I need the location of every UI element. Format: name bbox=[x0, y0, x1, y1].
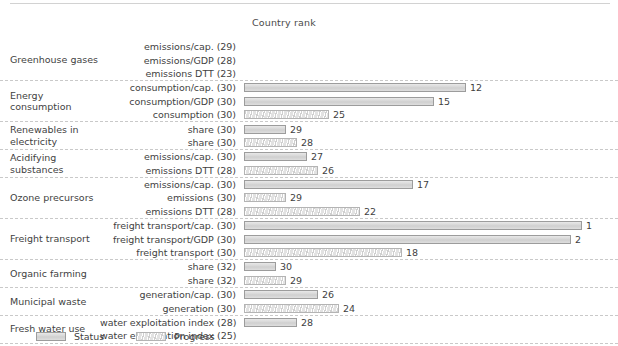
bar-area: 29 bbox=[244, 274, 618, 287]
row-label: freight transport/GDP (30) bbox=[100, 234, 244, 245]
chart-group-inner: Organic farmingshare (32)30share (32)29 bbox=[0, 260, 618, 287]
bar-value: 2 bbox=[575, 234, 581, 245]
bar-value: 26 bbox=[322, 289, 334, 300]
chart-row: generation (30)24 bbox=[100, 301, 618, 314]
group-rows: share (30)29share (30)28 bbox=[100, 122, 618, 149]
legend-label-progress: Progress bbox=[174, 331, 215, 342]
group-rows: freight transport/cap. (30)1freight tran… bbox=[100, 219, 618, 259]
bar-area: 1 bbox=[244, 219, 618, 232]
group-rows: emissions/cap. (29)emissions/GDP (28)emi… bbox=[100, 40, 618, 80]
row-label: emissions/cap. (30) bbox=[100, 151, 244, 162]
row-label: share (32) bbox=[100, 275, 244, 286]
bar-area: 24 bbox=[244, 301, 618, 314]
bar-area: 22 bbox=[244, 205, 618, 218]
bar-area bbox=[244, 67, 618, 80]
row-label: emissions (30) bbox=[100, 192, 244, 203]
status-bar[interactable] bbox=[244, 180, 413, 189]
bar-value: 26 bbox=[322, 165, 334, 176]
group-rows: generation/cap. (30)26generation (30)24 bbox=[100, 288, 618, 315]
group-rows: emissions/cap. (30)17emissions (30)29emi… bbox=[100, 178, 618, 218]
bar-value: 1 bbox=[586, 220, 592, 231]
group-label: Acidifying substances bbox=[0, 152, 100, 175]
bar-value: 27 bbox=[311, 151, 323, 162]
chart-row: share (30)28 bbox=[100, 136, 618, 149]
status-bar[interactable] bbox=[244, 318, 297, 327]
chart-row: generation/cap. (30)26 bbox=[100, 288, 618, 301]
row-label: emissions/cap. (30) bbox=[100, 179, 244, 190]
progress-bar[interactable] bbox=[244, 207, 360, 216]
bar-area: 30 bbox=[244, 260, 618, 273]
row-label: freight transport (30) bbox=[100, 247, 244, 258]
chart-group-inner: Energy consumptionconsumption/cap. (30)1… bbox=[0, 81, 618, 121]
status-bar[interactable] bbox=[244, 221, 582, 230]
bar-value: 22 bbox=[364, 206, 376, 217]
legend-item-progress: Progress bbox=[136, 331, 215, 342]
progress-swatch-icon bbox=[136, 332, 166, 341]
status-bar[interactable] bbox=[244, 125, 286, 134]
progress-bar[interactable] bbox=[244, 193, 286, 202]
bar-value: 12 bbox=[470, 82, 482, 93]
status-bar[interactable] bbox=[244, 290, 318, 299]
bar-value: 28 bbox=[301, 137, 313, 148]
bar-value: 28 bbox=[301, 317, 313, 328]
group-label: Renewables in electricity bbox=[0, 124, 100, 147]
chart-row: emissions DTT (28)22 bbox=[100, 205, 618, 218]
bar-value: 25 bbox=[333, 109, 345, 120]
row-label: generation (30) bbox=[100, 303, 244, 314]
chart-group: Renewables in electricityshare (30)29sha… bbox=[0, 122, 618, 150]
bar-value: 15 bbox=[438, 96, 450, 107]
bar-value: 24 bbox=[343, 303, 355, 314]
bar-value: 29 bbox=[290, 275, 302, 286]
chart-row: emissions DTT (28)26 bbox=[100, 164, 618, 177]
status-bar[interactable] bbox=[244, 97, 434, 106]
progress-bar[interactable] bbox=[244, 276, 286, 285]
chart-row: freight transport/GDP (30)2 bbox=[100, 232, 618, 245]
chart-row: water exploitation index (28)28 bbox=[100, 316, 618, 329]
bar-area bbox=[244, 329, 618, 342]
progress-bar[interactable] bbox=[244, 138, 297, 147]
bar-area: 28 bbox=[244, 316, 618, 329]
chart-row: emissions/cap. (30)17 bbox=[100, 178, 618, 191]
bar-area: 28 bbox=[244, 136, 618, 149]
status-bar[interactable] bbox=[244, 152, 307, 161]
bar-area: 2 bbox=[244, 232, 618, 245]
row-label: share (30) bbox=[100, 124, 244, 135]
row-label: emissions/cap. (29) bbox=[100, 41, 244, 52]
chart-row: share (30)29 bbox=[100, 122, 618, 135]
bar-area bbox=[244, 53, 618, 66]
group-label: Municipal waste bbox=[0, 296, 100, 308]
chart-group: Organic farmingshare (32)30share (32)29 bbox=[0, 260, 618, 288]
row-label: freight transport/cap. (30) bbox=[100, 220, 244, 231]
chart-group-inner: Freight transportfreight transport/cap. … bbox=[0, 219, 618, 259]
bar-area: 17 bbox=[244, 178, 618, 191]
group-label: Organic farming bbox=[0, 268, 100, 280]
group-rows: consumption/cap. (30)12consumption/GDP (… bbox=[100, 81, 618, 121]
row-label: emissions/GDP (28) bbox=[100, 55, 244, 66]
bar-value: 18 bbox=[406, 247, 418, 258]
chart-group-inner: Ozone precursorsemissions/cap. (30)17emi… bbox=[0, 178, 618, 218]
chart-row: consumption/cap. (30)12 bbox=[100, 81, 618, 94]
bar-area: 26 bbox=[244, 288, 618, 301]
row-label: consumption (30) bbox=[100, 109, 244, 120]
progress-bar[interactable] bbox=[244, 304, 339, 313]
progress-bar[interactable] bbox=[244, 248, 402, 257]
group-rows: emissions/cap. (30)27emissions DTT (28)2… bbox=[100, 150, 618, 177]
progress-bar[interactable] bbox=[244, 110, 329, 119]
chart-group: Energy consumptionconsumption/cap. (30)1… bbox=[0, 81, 618, 122]
row-label: consumption/cap. (30) bbox=[100, 82, 244, 93]
country-rank-chart: Country rank Greenhouse gasesemissions/c… bbox=[0, 0, 618, 346]
status-bar[interactable] bbox=[244, 83, 466, 92]
status-bar[interactable] bbox=[244, 262, 276, 271]
chart-group: Ozone precursorsemissions/cap. (30)17emi… bbox=[0, 178, 618, 219]
chart-group-inner: Municipal wastegeneration/cap. (30)26gen… bbox=[0, 288, 618, 315]
status-bar[interactable] bbox=[244, 235, 571, 244]
chart-group-inner: Greenhouse gasesemissions/cap. (29)emiss… bbox=[0, 40, 618, 80]
bar-area: 12 bbox=[244, 81, 618, 94]
bar-area: 27 bbox=[244, 150, 618, 163]
legend-label-status: Status bbox=[74, 331, 104, 342]
chart-group: Municipal wastegeneration/cap. (30)26gen… bbox=[0, 288, 618, 316]
chart-group: Acidifying substancesemissions/cap. (30)… bbox=[0, 150, 618, 178]
row-label: emissions DTT (28) bbox=[100, 206, 244, 217]
progress-bar[interactable] bbox=[244, 166, 318, 175]
chart-group-inner: Renewables in electricityshare (30)29sha… bbox=[0, 122, 618, 149]
